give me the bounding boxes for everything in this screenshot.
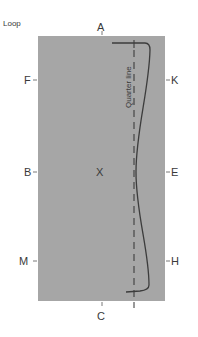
marker-h: H	[171, 255, 179, 267]
arena-diagram: A C F B M K E H X Quarter line	[0, 0, 198, 337]
marker-a: A	[97, 21, 105, 33]
marker-b: B	[24, 166, 31, 178]
quarter-line-label: Quarter line	[124, 66, 133, 108]
marker-e: E	[171, 166, 178, 178]
marker-f: F	[24, 74, 31, 86]
marker-m: M	[19, 255, 28, 267]
marker-k: K	[171, 74, 179, 86]
marker-c: C	[97, 310, 105, 322]
marker-x: X	[96, 166, 104, 178]
